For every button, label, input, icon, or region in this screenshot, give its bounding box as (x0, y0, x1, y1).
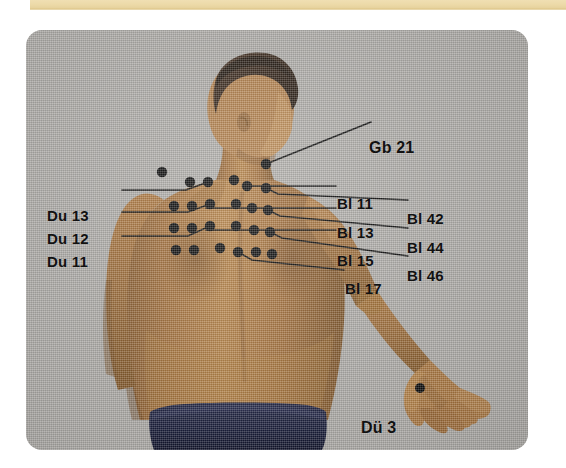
anatomy-photo-card: Gb 21 Bl 11 Bl 42 Bl 13 Bl 44 Bl 15 Bl 4… (26, 30, 528, 450)
point-row4-f (267, 249, 277, 259)
label-bl-17: Bl 17 (345, 281, 382, 296)
point-row2-e (247, 203, 257, 213)
label-du-13: Du 13 (47, 208, 89, 223)
point-row4-b (189, 245, 199, 255)
point-row3-a (169, 223, 179, 233)
point-row4-e (251, 247, 261, 257)
figure-illustration (26, 30, 528, 450)
swimming-trunks (149, 403, 327, 451)
point-gb21-right (261, 159, 271, 169)
point-row3-f (265, 227, 275, 237)
label-bl-15: Bl 15 (337, 253, 374, 268)
point-row4-c (215, 243, 225, 253)
label-bl-42: Bl 42 (407, 211, 444, 226)
point-du3 (415, 383, 425, 393)
point-row1-a (185, 177, 195, 187)
point-row4-a (171, 245, 181, 255)
point-row4-d (233, 247, 243, 257)
point-row1-b (203, 177, 213, 187)
label-bl-44: Bl 44 (407, 240, 444, 255)
point-row3-b (187, 223, 197, 233)
point-row1-c (229, 175, 239, 185)
point-row2-d (231, 199, 241, 209)
point-row1-e (261, 183, 271, 193)
decorative-beige-band-edge (30, 8, 566, 10)
label-du-12: Du 12 (47, 231, 89, 246)
point-row3-d (231, 221, 241, 231)
label-du-11: Du 11 (47, 254, 88, 269)
label-du-3: Dü 3 (361, 420, 396, 436)
label-bl-46: Bl 46 (407, 268, 444, 283)
point-row2-f (263, 205, 273, 215)
point-row1-d (242, 181, 252, 191)
label-bl-13: Bl 13 (337, 225, 374, 240)
point-row2-b (187, 201, 197, 211)
point-row2-a (169, 201, 179, 211)
point-row3-e (249, 225, 259, 235)
head-group (207, 52, 298, 180)
point-row2-c (205, 199, 215, 209)
point-row3-c (205, 221, 215, 231)
point-gb21-left (157, 167, 167, 177)
label-bl-11: Bl 11 (337, 196, 373, 211)
label-gb-21: Gb 21 (369, 140, 414, 156)
